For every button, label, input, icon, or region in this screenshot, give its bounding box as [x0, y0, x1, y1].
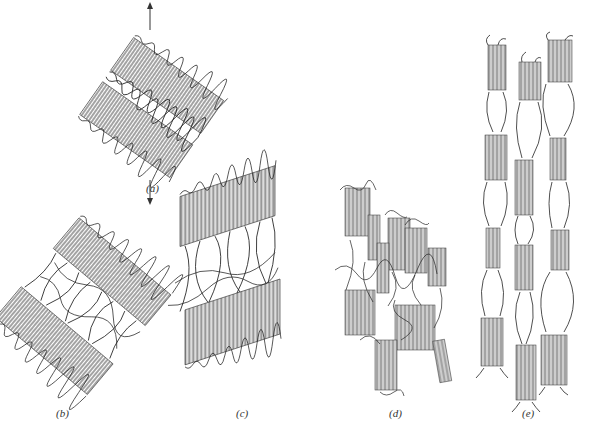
tensile-arrow-up-icon	[147, 2, 153, 30]
panel-c	[168, 144, 281, 390]
diagram-canvas: (a) (b) (c) (d) (e)	[0, 0, 592, 432]
panel-d	[335, 180, 452, 396]
lamellae-deformation-figure	[0, 0, 592, 432]
panel-label-e: (e)	[522, 407, 534, 419]
panel-a	[69, 2, 236, 205]
panel-label-d: (d)	[389, 407, 402, 419]
panel-label-a: (a)	[146, 182, 159, 194]
panel-b	[0, 200, 186, 412]
panel-label-c: (c)	[236, 407, 248, 419]
panel-label-b: (b)	[56, 407, 69, 419]
panel-e	[476, 32, 574, 412]
